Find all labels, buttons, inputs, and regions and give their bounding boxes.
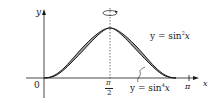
tick-label-pi: π bbox=[185, 83, 190, 91]
y-axis-label: y bbox=[36, 8, 41, 17]
tick-label-pi-over-2-num: π bbox=[106, 80, 111, 87]
curve-label-sin2: y = sin2x bbox=[150, 31, 190, 41]
tick-label-pi-over-2-den: 2 bbox=[107, 90, 111, 97]
x-axis-arrow bbox=[193, 76, 199, 80]
origin-label: 0 bbox=[34, 81, 40, 90]
y-axis-arrow bbox=[42, 9, 46, 15]
rotation-volume-diagram: y 0 x π 2 π y = sin2x y = sin4x bbox=[0, 0, 220, 103]
label-pointer bbox=[138, 67, 145, 82]
x-axis-label: x bbox=[203, 80, 208, 88]
curve-label-sin4: y = sin4x bbox=[130, 83, 170, 93]
